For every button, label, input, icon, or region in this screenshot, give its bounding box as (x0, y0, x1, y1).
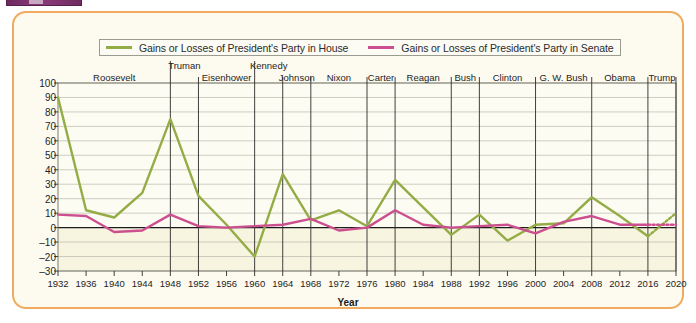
x-tick-label: 1932 (47, 278, 68, 289)
x-tick-label: 1972 (328, 278, 349, 289)
y-tick-label: 20 (45, 193, 56, 204)
x-tick-label: 2012 (609, 278, 630, 289)
y-tick-label: –20 (39, 251, 56, 262)
y-tick-label: 10 (45, 208, 56, 219)
y-tick-label: 0 (50, 222, 56, 233)
x-tick-label: 1968 (300, 278, 321, 289)
x-tick-label: 1952 (188, 278, 209, 289)
x-tick-label: 2004 (553, 278, 574, 289)
x-tick-label: 1980 (385, 278, 406, 289)
x-tick-label: 1960 (244, 278, 265, 289)
x-tick-label: 1956 (216, 278, 237, 289)
president-label: Kennedy (250, 60, 288, 71)
y-tick-label: 70 (45, 121, 56, 132)
x-tick-label: 1996 (497, 278, 518, 289)
president-label: Reagan (407, 72, 440, 83)
y-tick-label: 60 (45, 135, 56, 146)
president-label: Bush (454, 72, 476, 83)
president-label: G. W. Bush (540, 72, 588, 83)
y-tick-label: –30 (39, 266, 56, 277)
president-label: Nixon (327, 72, 351, 83)
figure-frame: Gains or Losses of President's Party in … (12, 11, 684, 309)
x-tick-label: 1944 (132, 278, 153, 289)
x-tick-label: 1988 (441, 278, 462, 289)
y-tick-label: 100 (39, 78, 56, 89)
president-label: Truman (168, 60, 200, 71)
x-tick-label: 1948 (160, 278, 181, 289)
y-tick-label: 50 (45, 150, 56, 161)
x-tick-label: 1992 (469, 278, 490, 289)
y-tick-label: 90 (45, 92, 56, 103)
x-axis-title: Year (14, 297, 682, 308)
chapter-tab (6, 0, 82, 6)
y-axis-ticks: 1009080706050403020100–10–20–30 (22, 13, 56, 311)
x-tick-label: 1984 (413, 278, 434, 289)
x-tick-label: 1940 (104, 278, 125, 289)
x-tick-label: 2020 (665, 278, 686, 289)
x-tick-label: 2008 (581, 278, 602, 289)
y-tick-label: 80 (45, 106, 56, 117)
x-tick-label: 2000 (525, 278, 546, 289)
president-label: Carter (368, 72, 394, 83)
president-label: Eisenhower (202, 72, 252, 83)
x-tick-label: 1976 (356, 278, 377, 289)
chart-svg (14, 13, 686, 311)
president-label: Roosevelt (93, 72, 135, 83)
y-tick-label: –10 (39, 237, 56, 248)
x-tick-label: 1936 (76, 278, 97, 289)
x-tick-label: 1964 (272, 278, 293, 289)
plot-area: RooseveltTrumanEisenhowerKennedyJohnsonN… (14, 13, 686, 311)
chapter-tab-glyph (29, 0, 43, 4)
president-label: Trump (648, 72, 675, 83)
president-label: Obama (604, 72, 635, 83)
x-tick-label: 2016 (637, 278, 658, 289)
president-label: Johnson (279, 72, 315, 83)
y-tick-label: 30 (45, 179, 56, 190)
y-tick-label: 40 (45, 164, 56, 175)
president-label: Clinton (493, 72, 523, 83)
